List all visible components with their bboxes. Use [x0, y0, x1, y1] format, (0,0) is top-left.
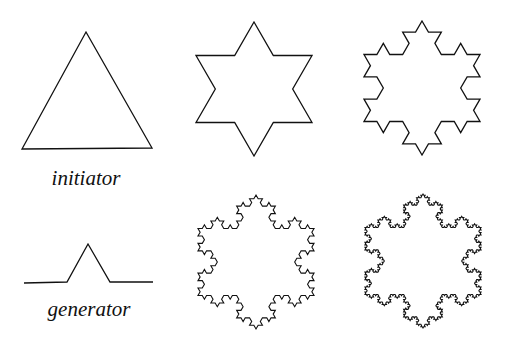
initiator-triangle	[22, 32, 152, 149]
koch-snowflake-level-3	[198, 195, 314, 329]
generator-label: generator	[48, 297, 131, 322]
koch-snowflake-level-2	[364, 21, 480, 155]
initiator-label: initiator	[52, 166, 121, 191]
koch-snowflake-level-1	[196, 22, 312, 156]
generator-curve	[24, 244, 153, 283]
koch-snowflake-level-4	[365, 194, 481, 328]
